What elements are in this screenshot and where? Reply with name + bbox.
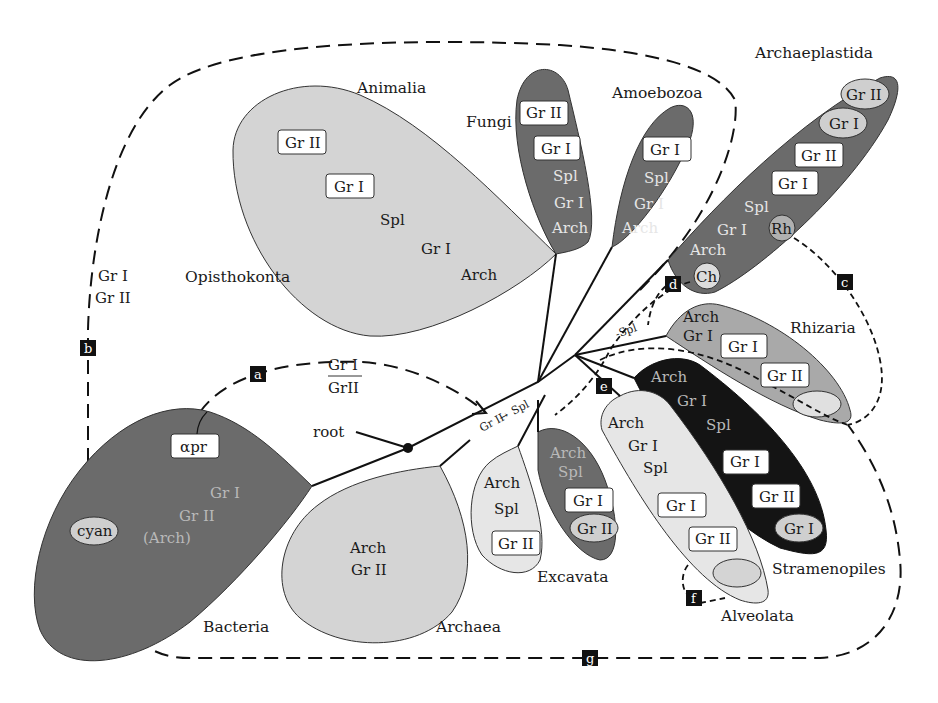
marker-b: b <box>80 340 96 356</box>
alveolata-text-gr1: Gr I <box>628 437 658 455</box>
bacteria-oval-cyan-text: cyan <box>77 522 113 540</box>
transfer-d-text: -Spl <box>614 321 639 341</box>
transfer-b-text-top: Gr I <box>98 267 128 285</box>
amoebozoa-text-gr1: Gr I <box>634 195 664 213</box>
bacteria-text-gr2: Gr II <box>179 507 215 525</box>
svg-text:b: b <box>84 341 92 356</box>
excavata-right-text-spl: Spl <box>558 463 583 481</box>
fungi-text-spl: Spl <box>553 167 578 185</box>
alveolata-text-spl: Spl <box>643 459 668 477</box>
animalia-text-gr1: Gr I <box>421 240 451 258</box>
amoebozoa-text-arch: Arch <box>621 219 658 237</box>
transfer-d-dashed-2 <box>648 286 666 325</box>
archaea-text-arch: Arch <box>349 539 386 557</box>
archaeplastida-oval-1-text: Gr II <box>846 86 882 104</box>
amoebozoa-box-1-text: Gr I <box>650 141 680 159</box>
alveolata-box-2-text: Gr II <box>695 530 731 548</box>
stramenopiles-text-spl: Spl <box>706 416 731 434</box>
root-node <box>403 443 413 453</box>
bacteria-text-arch: (Arch) <box>143 529 191 547</box>
marker-f: f <box>686 590 702 606</box>
animalia-text-spl: Spl <box>380 211 405 229</box>
rhizaria-text-gr1: Gr I <box>683 327 713 345</box>
archaeplastida-oval-2-text: Gr I <box>829 115 859 133</box>
svg-text:e: e <box>600 379 608 394</box>
chloroplast-text: Ch <box>696 268 717 286</box>
label-bacteria: Bacteria <box>203 618 269 636</box>
fungi-box-1-text: Gr II <box>526 104 562 122</box>
rhizaria-text-arch: Arch <box>682 308 719 326</box>
animalia-box-1-text: Gr II <box>285 134 321 152</box>
svg-text:d: d <box>669 277 677 292</box>
excavata-right-box-1-text: Gr I <box>573 492 603 510</box>
rhodoplast-text: Rh <box>771 220 792 238</box>
svg-text:g: g <box>586 651 594 666</box>
archaeplastida-text-spl: Spl <box>744 198 769 216</box>
label-stramenopiles: Stramenopiles <box>772 560 886 578</box>
transfer-b-text-bottom: Gr II <box>95 289 131 307</box>
transfer-a-text-top: Gr I <box>328 356 358 374</box>
excavata-right-oval-1-text: Gr II <box>577 520 613 538</box>
animalia-box-2-text: Gr I <box>334 178 364 196</box>
stramenopiles-oval-1-text: Gr I <box>784 520 814 538</box>
label-rhizaria: Rhizaria <box>790 319 856 337</box>
label-alveolata: Alveolata <box>720 607 794 625</box>
stramenopiles-text-arch: Arch <box>650 368 687 386</box>
label-opisthokonta: Opisthokonta <box>185 268 290 286</box>
label-amoebozoa: Amoebozoa <box>611 84 702 102</box>
rhizaria-box-2-text: Gr II <box>767 367 803 385</box>
archaeplastida-box-2-text: Gr I <box>778 175 808 193</box>
animalia-text-arch: Arch <box>460 266 497 284</box>
alveolata-box-1-text: Gr I <box>666 497 696 515</box>
svg-text:Spl: Spl <box>509 398 532 418</box>
archaeplastida-box-1-text: Gr II <box>801 147 837 165</box>
label-root: root <box>313 423 344 441</box>
excavata-left-box-1-text: Gr II <box>498 535 534 553</box>
stramenopiles-box-2-text: Gr II <box>759 488 795 506</box>
stem-annotation: Gr II → Spl <box>477 398 531 435</box>
alveolata-text-arch: Arch <box>607 414 644 432</box>
label-fungi: Fungi <box>466 113 512 131</box>
fungi-box-2-text: Gr I <box>541 140 571 158</box>
archaeplastida-text-gr1: Gr I <box>717 221 747 239</box>
excavata-right-text-arch: Arch <box>549 444 586 462</box>
fungi-text-arch: Arch <box>551 219 588 237</box>
phylogeny-diagram: Animalia Fungi Amoebozoa Archaeplastida … <box>0 0 938 703</box>
rhizaria-box-1-text: Gr I <box>728 338 758 356</box>
amoebozoa-text-spl: Spl <box>644 169 669 187</box>
bacteria-box-alpha-text: αpr <box>180 438 208 456</box>
marker-g: g <box>582 650 598 666</box>
fungi-text-gr1: Gr I <box>554 194 584 212</box>
label-excavata: Excavata <box>537 568 608 586</box>
marker-a: a <box>250 366 266 382</box>
label-archaeplastida: Archaeplastida <box>754 44 873 62</box>
alveolata-oval <box>713 559 761 587</box>
excavata-left-text-spl: Spl <box>494 500 519 518</box>
stramenopiles-box-1-text: Gr I <box>730 453 760 471</box>
marker-d: d <box>665 276 681 292</box>
rhizaria-oval <box>793 391 841 417</box>
excavata-left-text-arch: Arch <box>483 474 520 492</box>
label-animalia: Animalia <box>356 79 426 97</box>
stramenopiles-text-gr1: Gr I <box>677 392 707 410</box>
label-archaea: Archaea <box>435 618 501 636</box>
archaea-text-gr2: Gr II <box>351 561 387 579</box>
svg-text:a: a <box>254 367 262 382</box>
svg-text:c: c <box>841 275 848 290</box>
bacteria-text-gr1: Gr I <box>210 484 240 502</box>
transfer-a-text-bottom: GrII <box>328 379 359 397</box>
archaeplastida-text-arch: Arch <box>689 241 726 259</box>
marker-c: c <box>837 274 853 290</box>
marker-e: e <box>596 378 612 394</box>
